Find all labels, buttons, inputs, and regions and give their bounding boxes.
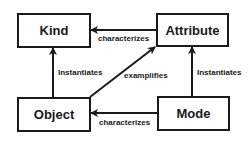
node-kind-label: Kind	[40, 23, 69, 38]
node-mode: Mode	[157, 96, 230, 131]
node-object-label: Object	[34, 107, 74, 122]
node-object: Object	[17, 97, 91, 132]
node-kind: Kind	[17, 13, 91, 48]
node-attribute-label: Attribute	[165, 23, 219, 38]
node-mode-label: Mode	[177, 106, 211, 121]
edge-label-right-instantiates: Instantiates	[197, 68, 241, 77]
edge-label-top-characterizes: characterizes	[98, 34, 149, 43]
node-attribute: Attribute	[156, 13, 229, 47]
edge-label-bottom-characterizes: characterizes	[99, 118, 150, 127]
edge-label-examplifies: examplifies	[124, 71, 168, 80]
edge-label-left-instantiates: Instantiates	[58, 68, 102, 77]
